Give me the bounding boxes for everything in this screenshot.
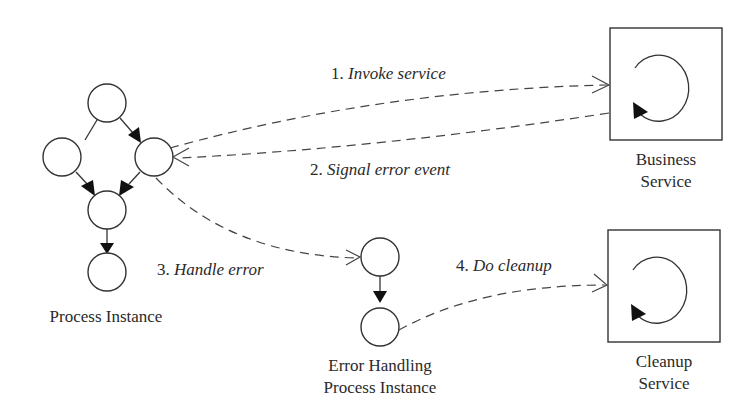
edge-label-handle-error: 3. Handle error	[157, 260, 264, 280]
error-node-bottom	[361, 308, 399, 346]
activity-node-top	[88, 84, 126, 122]
edge-invoke-service	[170, 76, 609, 148]
arrowhead-icon	[81, 180, 95, 196]
flow-top-to-left	[85, 120, 97, 140]
flow-top-to-right	[120, 118, 133, 133]
business-service-box	[610, 28, 722, 140]
flow-left-to-middle	[76, 172, 88, 185]
process-instance-graph	[43, 84, 173, 291]
error-handling-label-line2: Process Instance	[324, 378, 437, 398]
edge-text: Do cleanup	[473, 256, 552, 275]
cleanup-service-label-line1: Cleanup	[636, 352, 693, 372]
edge-text: Signal error event	[327, 160, 450, 179]
activity-node-middle	[88, 191, 126, 229]
open-arrowhead-icon	[592, 274, 607, 292]
edge-number: 4.	[456, 256, 469, 275]
arrowhead-icon	[119, 180, 134, 196]
edge-handle-error	[156, 178, 360, 265]
process-instance-label: Process Instance	[50, 307, 163, 327]
cleanup-service-box	[608, 230, 720, 342]
edge-number: 3.	[157, 260, 170, 279]
activity-node-right	[135, 138, 173, 176]
edge-text: Handle error	[174, 260, 264, 279]
error-handling-graph	[361, 238, 399, 346]
arrowhead-icon	[373, 291, 387, 303]
edge-number: 2.	[310, 160, 323, 179]
flow-right-to-middle	[129, 172, 140, 184]
edge-do-cleanup	[399, 274, 607, 330]
edge-label-do-cleanup: 4. Do cleanup	[456, 256, 552, 276]
error-node-top	[361, 238, 399, 276]
activity-node-bottom	[88, 253, 126, 291]
edge-number: 1.	[331, 64, 344, 83]
business-service-label-line1: Business	[636, 150, 696, 170]
error-handling-label-line1: Error Handling	[328, 356, 431, 376]
edge-label-signal-error: 2. Signal error event	[310, 160, 450, 180]
edge-label-invoke-service: 1. Invoke service	[331, 64, 446, 84]
cleanup-service-label-line2: Service	[639, 374, 690, 394]
edge-text: Invoke service	[348, 64, 446, 83]
business-service-label-line2: Service	[641, 172, 692, 192]
edge-signal-error	[173, 113, 609, 166]
open-arrowhead-icon	[173, 148, 189, 166]
activity-node-left	[43, 138, 81, 176]
